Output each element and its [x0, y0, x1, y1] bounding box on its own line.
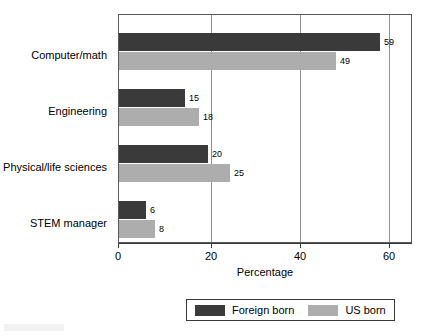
bar-us-born-engineering [119, 108, 199, 126]
legend: Foreign born US born [186, 299, 395, 321]
legend-swatch-us-born [308, 305, 338, 316]
scan-artifact [4, 324, 64, 331]
bar-value-foreign-born-physical-life-sciences: 20 [212, 145, 222, 163]
bar-value-us-born-physical-life-sciences: 25 [234, 164, 244, 182]
bar-us-born-physical-life-sciences [119, 164, 230, 182]
bar-chart-figure: Computer/math Engineering Physical/life … [0, 0, 430, 336]
legend-entry-foreign-born: Foreign born [195, 304, 294, 316]
legend-swatch-foreign-born [195, 305, 225, 316]
x-tick-20 [211, 243, 212, 248]
bar-value-foreign-born-computer-math: 59 [384, 33, 394, 51]
category-label-engineering: Engineering [0, 105, 113, 117]
legend-label-us-born: US born [345, 304, 385, 316]
bar-foreign-born-stem-manager [119, 201, 146, 219]
x-ticklabel-0: 0 [115, 250, 121, 262]
category-label-physical-life-sciences: Physical/life sciences [0, 161, 113, 173]
x-tick-0 [118, 243, 119, 248]
x-ticklabel-20: 20 [205, 250, 217, 262]
bar-value-us-born-stem-manager: 8 [159, 220, 164, 238]
bars-layer: 59 49 15 18 20 25 6 8 [119, 15, 411, 242]
x-ticklabel-60: 60 [383, 250, 395, 262]
bar-foreign-born-computer-math [119, 33, 380, 51]
x-tick-40 [300, 243, 301, 248]
x-axis-line [118, 243, 412, 244]
legend-entry-us-born: US born [308, 304, 385, 316]
bar-us-born-stem-manager [119, 220, 155, 238]
bar-foreign-born-physical-life-sciences [119, 145, 208, 163]
category-label-computer-math: Computer/math [0, 49, 113, 61]
x-ticklabel-40: 40 [294, 250, 306, 262]
bar-value-us-born-computer-math: 49 [340, 52, 350, 70]
category-label-stem-manager: STEM manager [0, 217, 113, 229]
bar-value-foreign-born-stem-manager: 6 [150, 201, 155, 219]
bar-foreign-born-engineering [119, 89, 185, 107]
x-tick-60 [389, 243, 390, 248]
category-axis-labels: Computer/math Engineering Physical/life … [0, 15, 113, 242]
bar-value-foreign-born-engineering: 15 [189, 89, 199, 107]
legend-label-foreign-born: Foreign born [232, 304, 294, 316]
bar-us-born-computer-math [119, 52, 336, 70]
bar-value-us-born-engineering: 18 [203, 108, 213, 126]
x-axis-title: Percentage [118, 266, 412, 278]
